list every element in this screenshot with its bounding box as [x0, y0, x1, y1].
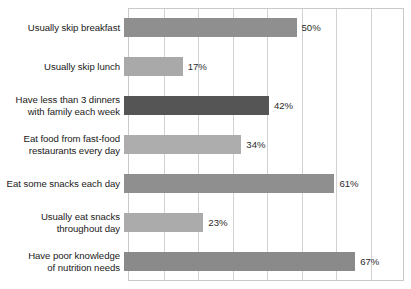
bar-track: 34% [124, 125, 400, 164]
bar[interactable] [124, 135, 241, 154]
bar[interactable] [124, 252, 355, 271]
bar-row: Have poor knowledge of nutrition needs67… [0, 242, 411, 281]
bar-value-label: 67% [360, 256, 379, 267]
bar-track: 50% [124, 8, 400, 47]
bar-track: 42% [124, 86, 400, 125]
bar[interactable] [124, 18, 297, 37]
category-label: Have less than 3 dinners with family eac… [0, 94, 124, 117]
category-label: Have poor knowledge of nutrition needs [0, 250, 124, 273]
bar-row: Usually eat snacks throughout day23% [0, 203, 411, 242]
bar[interactable] [124, 174, 334, 193]
category-label: Eat some snacks each day [0, 178, 124, 189]
bar-track: 67% [124, 242, 400, 281]
category-label: Usually eat snacks throughout day [0, 211, 124, 234]
bar-value-label: 42% [274, 100, 293, 111]
category-label: Usually skip lunch [0, 61, 124, 72]
bar-row: Have less than 3 dinners with family eac… [0, 86, 411, 125]
bar-value-label: 17% [188, 61, 207, 72]
bar[interactable] [124, 57, 183, 76]
bar-row: Eat food from fast-food restaurants ever… [0, 125, 411, 164]
bar-value-label: 61% [339, 178, 358, 189]
bar-value-label: 34% [246, 139, 265, 150]
category-label: Usually skip breakfast [0, 22, 124, 33]
bar-track: 23% [124, 203, 400, 242]
bar-chart: Usually skip breakfast50%Usually skip lu… [0, 0, 411, 289]
bar-value-label: 23% [208, 217, 227, 228]
bar-value-label: 50% [302, 22, 321, 33]
bar[interactable] [124, 96, 269, 115]
bar-track: 61% [124, 164, 400, 203]
bar-row: Usually skip lunch17% [0, 47, 411, 86]
bar-row: Usually skip breakfast50% [0, 8, 411, 47]
bar[interactable] [124, 213, 203, 232]
category-label: Eat food from fast-food restaurants ever… [0, 133, 124, 156]
bar-row: Eat some snacks each day61% [0, 164, 411, 203]
bar-track: 17% [124, 47, 400, 86]
